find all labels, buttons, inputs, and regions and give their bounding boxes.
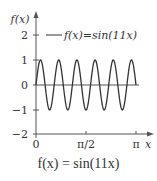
legend-label: f(x)=sin(11x)	[63, 29, 137, 42]
xtick-label-pi: π	[132, 138, 139, 151]
y-axis-label: f(x)	[10, 13, 30, 26]
y-axis-arrow-icon	[34, 11, 39, 18]
ytick-label-m2: −2	[12, 128, 28, 141]
x-axis-arrow-icon	[147, 132, 154, 137]
chart: 2 1 0 −1 −2 0 π/2 π x f(x) f(x)=sin(11x)	[0, 0, 157, 181]
xtick-label-pi-half: π/2	[77, 138, 95, 151]
figure-caption: f(x) = sin(11x)	[0, 156, 157, 172]
ytick-label-0: 0	[21, 79, 28, 92]
ytick-label-1: 1	[21, 54, 28, 67]
xtick-label-0: 0	[33, 138, 40, 151]
ytick-label-m1: −1	[12, 104, 28, 117]
x-axis-label: x	[145, 138, 152, 151]
ytick-label-2: 2	[21, 29, 28, 42]
